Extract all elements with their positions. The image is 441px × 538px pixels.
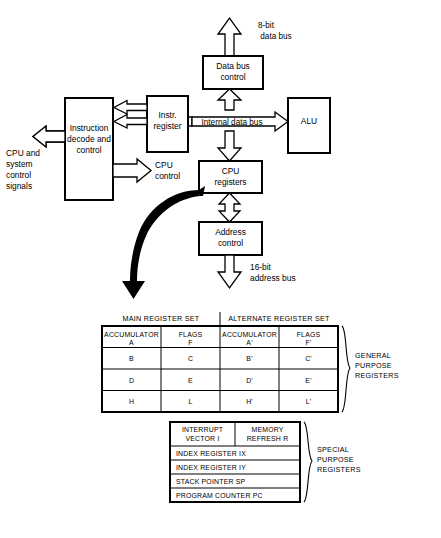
instruction-decode-label-line3: control <box>76 145 101 155</box>
address-bus-label-line2: address bus <box>250 273 296 283</box>
special-purpose-label-line2: PURPOSE <box>317 455 354 464</box>
data-bus-label-line2: data bus <box>260 32 291 41</box>
address-bus-arrow-down <box>218 255 241 288</box>
cell-c: C <box>188 355 193 362</box>
data-bus-control-label-line2: control <box>220 72 245 82</box>
cell-accumulator-a-alt-line1: ACCUMULATOR <box>222 331 277 338</box>
internal-data-bus-label: Internal data bus <box>202 118 263 127</box>
cell-accumulator-a-line1: ACCUMULATOR <box>104 331 159 338</box>
cell-program-counter-pc: PROGRAM COUNTER PC <box>176 492 263 499</box>
general-purpose-brace <box>342 326 350 412</box>
cpu-system-control-label-line1: CPU and <box>6 148 40 158</box>
cell-l: L <box>188 398 192 405</box>
general-purpose-label-line2: PURPOSE <box>355 361 392 370</box>
data-bus-label-line1: 8-bit <box>258 21 275 30</box>
cpu-control-label-line2: control <box>155 171 180 181</box>
cell-l-alt: L' <box>306 398 312 405</box>
instr-register-label-line2: register <box>154 121 182 131</box>
instruction-decode-label-line1: Instruction <box>70 123 109 133</box>
cell-interrupt-vector-line2: VECTOR I <box>185 435 219 442</box>
databus-to-internalbus-arrow <box>218 89 241 110</box>
address-control-label-line2: control <box>218 238 243 248</box>
cell-b-alt: B' <box>246 355 252 362</box>
cell-interrupt-vector-line1: INTERRUPT <box>182 426 224 433</box>
cell-e-alt: E' <box>305 377 311 384</box>
cell-h: H <box>129 398 134 405</box>
cpu-system-control-label-line2: system <box>6 159 33 169</box>
cell-h-alt: H' <box>246 398 253 405</box>
cpu-control-arrow <box>113 159 151 182</box>
cell-accumulator-a-line2: A <box>129 339 134 346</box>
address-control-label-line1: Address <box>215 227 246 237</box>
special-purpose-label-line3: REGISTERS <box>317 465 361 474</box>
cpu-system-control-label-line4: signals <box>6 181 32 191</box>
cell-memory-refresh-line2: REFRESH R <box>247 435 289 442</box>
cell-stack-pointer-sp: STACK POINTER SP <box>176 478 246 485</box>
internalbus-to-cpuregisters-arrow <box>218 131 241 161</box>
cpu-control-label-line1: CPU <box>155 160 173 170</box>
data-bus-arrow-up <box>218 18 241 56</box>
address-bus-label-line1: 16-bit <box>250 262 272 272</box>
alu-label: ALU <box>301 116 317 126</box>
cell-e: E <box>188 377 193 384</box>
cell-flags-f-line1: FLAGS <box>179 331 203 338</box>
cell-c-alt: C' <box>305 355 312 362</box>
cpu-system-control-label-line3: control <box>6 170 31 180</box>
cell-flags-f-alt-line2: F' <box>306 339 312 346</box>
alternate-register-set-header: ALTERNATE REGISTER SET <box>228 314 330 323</box>
cell-b: B <box>129 355 134 362</box>
data-bus-control-label-line1: Data bus <box>216 61 250 71</box>
cpu-registers-label-line1: CPU <box>222 166 240 176</box>
cell-index-register-ix: INDEX REGISTER IX <box>176 450 246 457</box>
cell-flags-f-alt-line1: FLAGS <box>297 331 321 338</box>
z80-block-diagram: 8-bit data bus Data bus control Internal… <box>0 0 441 538</box>
cell-d: D <box>129 377 134 384</box>
main-register-set-header: MAIN REGISTER SET <box>123 314 200 323</box>
cpu-registers-label-line2: registers <box>214 177 246 187</box>
cell-d-alt: D' <box>246 377 253 384</box>
cpu-system-control-arrow <box>33 126 65 147</box>
general-purpose-label-line3: REGISTERS <box>355 371 399 380</box>
special-purpose-brace <box>304 422 312 502</box>
cell-flags-f-line2: F <box>188 339 192 346</box>
expansion-curve-arrow <box>122 186 205 299</box>
cell-memory-refresh-line1: MEMORY <box>251 426 283 433</box>
instr-register-to-decode-arrows <box>114 101 147 129</box>
instruction-decode-label-line2: decode and <box>67 134 111 144</box>
special-purpose-label-line1: SPECIAL <box>317 445 349 454</box>
diagram-page: 8-bit data bus Data bus control Internal… <box>0 0 441 538</box>
cell-index-register-iy: INDEX REGISTER IY <box>176 464 246 471</box>
cpuregisters-to-addresscontrol-arrow <box>219 193 240 222</box>
general-purpose-label-line1: GENERAL <box>355 351 391 360</box>
instr-register-label-line1: Instr. <box>158 110 176 120</box>
cell-accumulator-a-alt-line2: A' <box>246 339 252 346</box>
